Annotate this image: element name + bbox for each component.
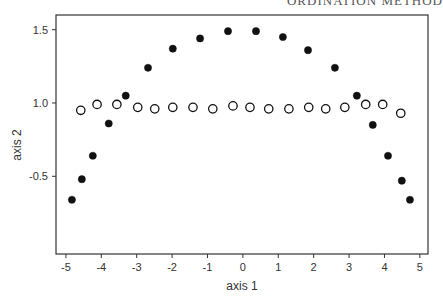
open-circle-point: [341, 103, 349, 111]
x-axis: -5-4-3-2-1012345: [61, 254, 423, 273]
open-circle-point: [397, 109, 405, 117]
open-circle-point: [169, 103, 177, 111]
filled-circle-point: [406, 196, 413, 203]
filled-circle-point: [252, 28, 259, 35]
open-circle-point: [189, 103, 197, 111]
open-circle-point: [246, 103, 254, 111]
filled-circle-point: [89, 152, 96, 159]
filled-circle-point: [196, 35, 203, 42]
open-circle-point: [209, 105, 217, 113]
open-circle-point: [113, 100, 121, 108]
open-circle-point: [93, 100, 101, 108]
open-circle-point: [322, 105, 330, 113]
y-tick-label: -0.5: [29, 170, 48, 182]
x-tick-label: -5: [61, 261, 71, 273]
x-tick-label: 1: [275, 261, 281, 273]
filled-circle-point: [105, 120, 112, 127]
x-tick-label: -4: [96, 261, 106, 273]
filled-circle-point: [144, 64, 151, 71]
y-axis: -0.51.01.5: [29, 24, 56, 183]
x-tick-label: -2: [167, 261, 177, 273]
open-circle-point: [77, 106, 85, 114]
y-axis-title: axis 2: [10, 129, 24, 161]
x-tick-label: 2: [311, 261, 317, 273]
open-circle-point: [378, 100, 386, 108]
x-tick-label: -1: [203, 261, 213, 273]
open-circle-point: [151, 105, 159, 113]
open-circle-point: [229, 102, 237, 110]
filled-circle-point: [68, 196, 75, 203]
x-tick-label: 4: [381, 261, 387, 273]
x-tick-label: -3: [132, 261, 142, 273]
filled-circle-point: [304, 47, 311, 54]
plot-frame: [56, 15, 428, 254]
open-circle-point: [134, 103, 142, 111]
x-tick-label: 3: [346, 261, 352, 273]
filled-circle-point: [122, 92, 129, 99]
filled-circle-point: [279, 33, 286, 40]
filled-circle-point: [78, 176, 85, 183]
x-tick-label: 0: [240, 261, 246, 273]
filled-circle-point: [331, 64, 338, 71]
filled-circle-point: [398, 177, 405, 184]
y-tick-label: 1.0: [33, 97, 48, 109]
open-circle-point: [285, 105, 293, 113]
y-tick-label: 1.5: [33, 24, 48, 36]
filled-circle-point: [169, 45, 176, 52]
filled-circle-point: [384, 152, 391, 159]
filled-circle-point: [224, 28, 231, 35]
open-circle-point: [362, 100, 370, 108]
x-axis-title: axis 1: [226, 279, 258, 293]
filled-circle-point: [353, 92, 360, 99]
x-tick-label: 5: [417, 261, 423, 273]
data-points: [68, 28, 413, 204]
open-circle-point: [265, 105, 273, 113]
filled-circle-point: [369, 121, 376, 128]
open-circle-point: [305, 103, 313, 111]
scatter-chart: -5-4-3-2-1012345 -0.51.01.5 axis 1 axis …: [0, 0, 443, 300]
